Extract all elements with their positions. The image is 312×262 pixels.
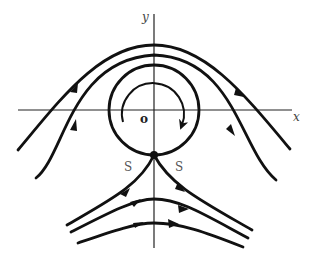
rotation-arrow	[122, 83, 184, 125]
stagnation-label-right: S	[175, 160, 183, 174]
streamline-lower-1	[71, 199, 248, 238]
origin-label: o	[140, 112, 148, 126]
arrow-icon	[70, 119, 77, 131]
streamline-lower-2	[78, 223, 243, 247]
stagnation-label-left: S	[124, 160, 132, 174]
y-axis-label: y	[141, 10, 149, 24]
arrow-icon	[226, 124, 235, 136]
arrow-icon	[130, 199, 141, 207]
flow-diagram: y x o S S	[0, 0, 312, 262]
streamline-upper-middle	[36, 55, 276, 180]
x-axis-label: x	[293, 110, 300, 124]
